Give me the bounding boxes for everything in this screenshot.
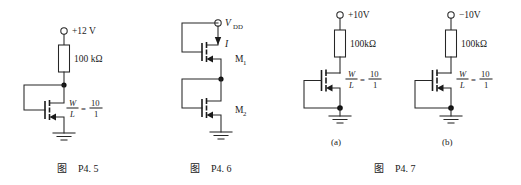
caption-cn: 图 (374, 163, 384, 174)
source-arrow (50, 114, 57, 121)
m2-label-subscript: 2 (243, 110, 247, 117)
b-source-arrow (437, 85, 444, 92)
m2-source-lead (212, 115, 221, 132)
m1-source-arrow (207, 56, 214, 63)
subfigure-a: +10V 100kΩ W L = 10 1 (a) (304, 10, 381, 147)
a-wl-numerator: W (348, 69, 356, 79)
figure-p4-5: +12 V 100 kΩ W L = 10 1 图 P4. 5 (0, 0, 160, 185)
b-sublabel: (b) (442, 137, 453, 147)
a-resistor-label: 100kΩ (350, 39, 376, 49)
supply-label: +12 V (72, 26, 96, 36)
a-supply-label: +10V (348, 10, 370, 20)
current-arrow (215, 37, 221, 45)
a-sublabel: (a) (331, 137, 341, 147)
m2-drain-lead (207, 79, 222, 101)
b-supply-label: −10V (459, 10, 481, 20)
a-source-lead (332, 88, 340, 108)
a-resistor-body (335, 30, 346, 57)
figure-sheet: +12 V 100 kΩ W L = 10 1 图 P4. 5 (0, 0, 521, 185)
m1-gate-feedback-wire (182, 23, 218, 52)
b-resistor-label: 100kΩ (461, 39, 487, 49)
resistor-body (59, 45, 70, 72)
figure-p4-7: +10V 100kΩ W L = 10 1 (a) (290, 0, 521, 185)
subfigure-b: −10V 100kΩ W L = 10 1 (b) (415, 10, 492, 147)
source-lead (55, 117, 64, 133)
b-wl-numerator: W (459, 69, 467, 79)
supply-label-group: V DD (225, 18, 243, 30)
m1-label-subscript: 1 (243, 59, 246, 66)
b-wl-equals: = (471, 75, 476, 85)
a-supply-terminal-circle (337, 12, 343, 18)
figure-p4-6: V DD I M 1 M 2 图 P4. 6 (150, 0, 300, 185)
gate-feedback-wire (24, 85, 64, 110)
m1-drain-lead (207, 26, 218, 45)
drain-lead (50, 85, 65, 103)
b-wl-rhs-numerator: 10 (481, 69, 490, 79)
a-wl-denominator: L (348, 80, 354, 90)
m1-label-group: M 1 (235, 54, 246, 66)
b-resistor-body (446, 30, 457, 57)
m1-source-lead (212, 59, 221, 79)
b-supply-terminal-circle (448, 12, 454, 18)
wl-equals: = (81, 104, 86, 114)
current-label: I (224, 39, 229, 49)
supply-label-subscript: DD (233, 23, 243, 30)
m2-label-group: M 2 (235, 105, 247, 117)
wl-denominator: L (69, 109, 75, 119)
b-wl-ratio: W L = 10 1 (457, 69, 492, 90)
wl-rhs-denominator: 1 (94, 109, 98, 119)
caption-cn: 图 (190, 163, 200, 174)
a-wl-rhs-denominator: 1 (373, 80, 377, 90)
wl-rhs-numerator: 10 (91, 98, 100, 108)
caption-number: P4. 6 (211, 163, 232, 174)
resistor-label: 100 kΩ (74, 54, 102, 64)
wl-ratio: W L = 10 1 (67, 98, 102, 119)
b-wl-denominator: L (459, 80, 465, 90)
a-wl-rhs-numerator: 10 (370, 69, 379, 79)
caption-number: P4. 7 (395, 163, 416, 174)
a-wl-equals: = (360, 75, 365, 85)
a-source-arrow (326, 85, 333, 92)
b-source-lead (443, 88, 451, 108)
m2-source-arrow (207, 112, 214, 119)
wl-numerator: W (69, 98, 77, 108)
caption-cn: 图 (57, 163, 67, 174)
supply-label: V (225, 18, 232, 28)
caption-number: P4. 5 (78, 163, 99, 174)
b-wl-rhs-denominator: 1 (484, 80, 488, 90)
a-wl-ratio: W L = 10 1 (346, 69, 381, 90)
supply-terminal-circle (61, 28, 67, 34)
